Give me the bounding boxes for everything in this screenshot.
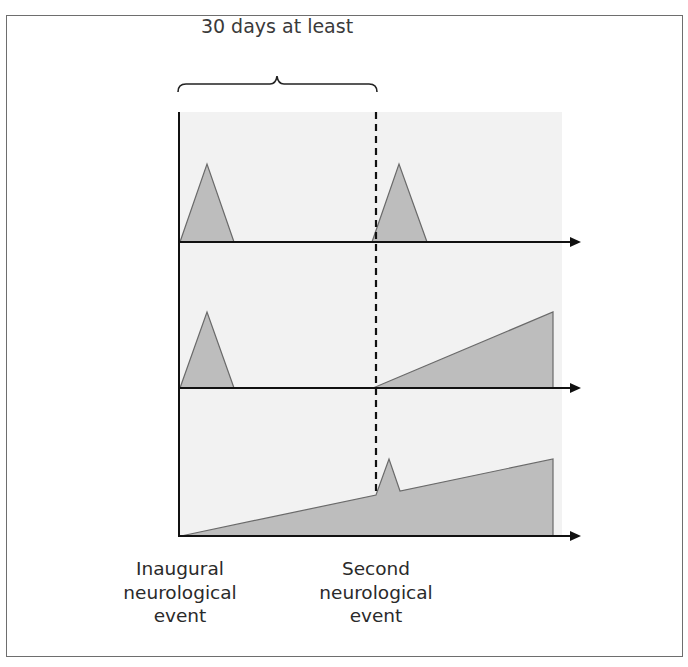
label-line: Second bbox=[296, 557, 456, 581]
second-event-label: Second neurological event bbox=[296, 557, 456, 628]
label-line: event bbox=[296, 604, 456, 628]
label-line: event bbox=[100, 604, 260, 628]
label-line: Inaugural bbox=[100, 557, 260, 581]
inaugural-event-label: Inaugural neurological event bbox=[100, 557, 260, 628]
interval-brace bbox=[178, 76, 377, 92]
label-line: neurological bbox=[296, 581, 456, 605]
label-line: neurological bbox=[100, 581, 260, 605]
